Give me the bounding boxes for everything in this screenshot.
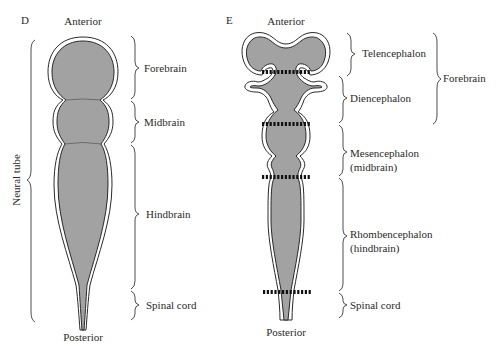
neural-tube-diagram: D Anterior Posterior Neural tube Forebra…: [0, 0, 496, 347]
panel-d-letter: D: [21, 14, 29, 26]
panel-e-rhombencephalon-label: Rhombencephalon: [350, 228, 433, 240]
panel-e-letter: E: [226, 14, 233, 26]
panel-d-midbrain-label: Midbrain: [144, 116, 185, 128]
panel-d-hindbrain-label: Hindbrain: [146, 208, 191, 220]
panel-d: D Anterior Posterior Neural tube Forebra…: [10, 14, 197, 343]
panel-e-rhombencephalon-brace: [339, 178, 347, 291]
panel-e-forebrain-group-label: Forebrain: [443, 72, 486, 84]
panel-d-forebrain-label: Forebrain: [144, 62, 187, 74]
panel-e-spinal-cord-brace: [339, 293, 347, 318]
panel-d-neural-tube-label: Neural tube: [10, 154, 22, 206]
panel-d-hindbrain-brace: [131, 145, 139, 289]
panel-e-telencephalon-label: Telencephalon: [362, 47, 426, 59]
panel-e-diencephalon-label: Diencephalon: [350, 92, 412, 104]
panel-e-mesencephalon-label: Mesencephalon: [350, 147, 420, 159]
panel-e-rhombencephalon-sublabel: (hindbrain): [350, 242, 400, 255]
panel-d-posterior-label: Posterior: [63, 331, 103, 343]
panel-e-mesencephalon-sublabel: (midbrain): [350, 161, 397, 174]
panel-d-spinal-cord-label: Spinal cord: [146, 299, 197, 311]
panel-d-spinal-cord-brace: [131, 291, 139, 320]
panel-e-anterior-label: Anterior: [267, 15, 305, 27]
panel-e-diencephalon-brace: [339, 76, 347, 123]
panel-e-mesencephalon-brace: [339, 125, 347, 176]
panel-d-lumen: [52, 41, 114, 330]
panel-d-anterior-label: Anterior: [64, 15, 102, 27]
panel-e-posterior-label: Posterior: [266, 326, 306, 338]
panel-e-spinal-cord-label: Spinal cord: [350, 299, 401, 311]
panel-e-forebrain-group-brace: [433, 33, 441, 124]
panel-e-telencephalon-brace: [347, 33, 355, 76]
panel-d-forebrain-brace: [131, 36, 139, 99]
panel-d-neural-tube-brace: [27, 40, 35, 322]
panel-d-midbrain-brace: [131, 101, 139, 143]
panel-e: E Anterior Posterior Telencephalon Dienc…: [226, 14, 486, 338]
